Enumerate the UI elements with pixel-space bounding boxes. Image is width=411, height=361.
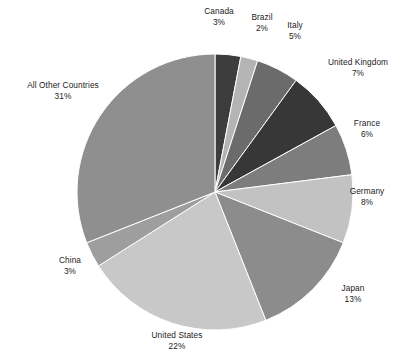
pie-slice-group xyxy=(77,54,353,330)
pie-label-canada-value: 3% xyxy=(194,17,244,28)
pie-label-germany-value: 8% xyxy=(338,197,396,208)
pie-label-china-name: China xyxy=(48,255,92,266)
pie-label-canada: Canada 3% xyxy=(194,6,244,27)
pie-chart-canvas xyxy=(0,0,411,361)
pie-label-brazil-name: Brazil xyxy=(243,12,281,23)
pie-label-brazil-value: 2% xyxy=(243,23,281,34)
pie-label-china-value: 3% xyxy=(48,266,92,277)
pie-label-japan-name: Japan xyxy=(330,283,376,294)
pie-chart-figure: Canada 3% Brazil 2% Italy 5% United King… xyxy=(0,0,411,361)
pie-label-united-states: United States 22% xyxy=(135,330,219,351)
pie-label-germany-name: Germany xyxy=(338,186,396,197)
pie-label-united-states-value: 22% xyxy=(135,341,219,352)
pie-label-japan-value: 13% xyxy=(330,294,376,305)
pie-label-all-other-countries: All Other Countries 31% xyxy=(14,80,112,101)
pie-label-france-name: France xyxy=(341,118,393,129)
pie-label-canada-name: Canada xyxy=(194,6,244,17)
pie-label-japan: Japan 13% xyxy=(330,283,376,304)
pie-label-germany: Germany 8% xyxy=(338,186,396,207)
pie-label-italy: Italy 5% xyxy=(278,20,312,41)
pie-label-united-kingdom-value: 7% xyxy=(312,68,404,79)
pie-label-china: China 3% xyxy=(48,255,92,276)
pie-label-united-kingdom: United Kingdom 7% xyxy=(312,57,404,78)
pie-label-brazil: Brazil 2% xyxy=(243,12,281,33)
pie-label-united-states-name: United States xyxy=(135,330,219,341)
pie-label-italy-value: 5% xyxy=(278,31,312,42)
pie-label-all-other-countries-name: All Other Countries xyxy=(14,80,112,91)
pie-label-italy-name: Italy xyxy=(278,20,312,31)
pie-label-all-other-countries-value: 31% xyxy=(14,91,112,102)
pie-label-france-value: 6% xyxy=(341,129,393,140)
pie-label-france: France 6% xyxy=(341,118,393,139)
pie-label-united-kingdom-name: United Kingdom xyxy=(312,57,404,68)
